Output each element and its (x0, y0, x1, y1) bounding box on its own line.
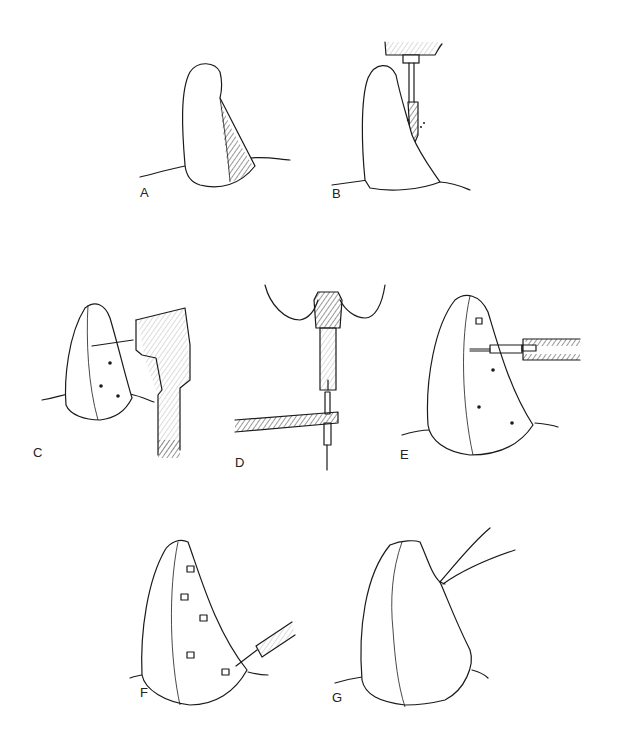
tooth-drilling-illustration (320, 0, 500, 210)
panel-c: C (30, 290, 230, 480)
restoration-buildup-illustration (320, 520, 540, 720)
panel-b: B (320, 0, 500, 210)
pin-insertion-illustration (400, 290, 600, 480)
panel-label-f: F (140, 685, 148, 700)
handpiece-drilling-illustration (30, 290, 230, 480)
panel-a: A (130, 50, 310, 210)
panel-label-b: B (332, 186, 341, 201)
panel-e: E (400, 290, 600, 480)
panel-label-d: D (235, 455, 244, 470)
panel-label-a: A (140, 185, 149, 200)
multiple-pins-illustration (130, 520, 330, 720)
panel-label-c: C (33, 445, 42, 460)
pin-driver-illustration (230, 280, 410, 480)
panel-d: D (230, 280, 410, 480)
panel-label-g: G (332, 690, 342, 705)
panel-g: G (320, 520, 540, 720)
panel-label-e: E (400, 447, 409, 462)
tooth-shaded-illustration (130, 50, 310, 210)
panel-f: F (130, 520, 330, 720)
